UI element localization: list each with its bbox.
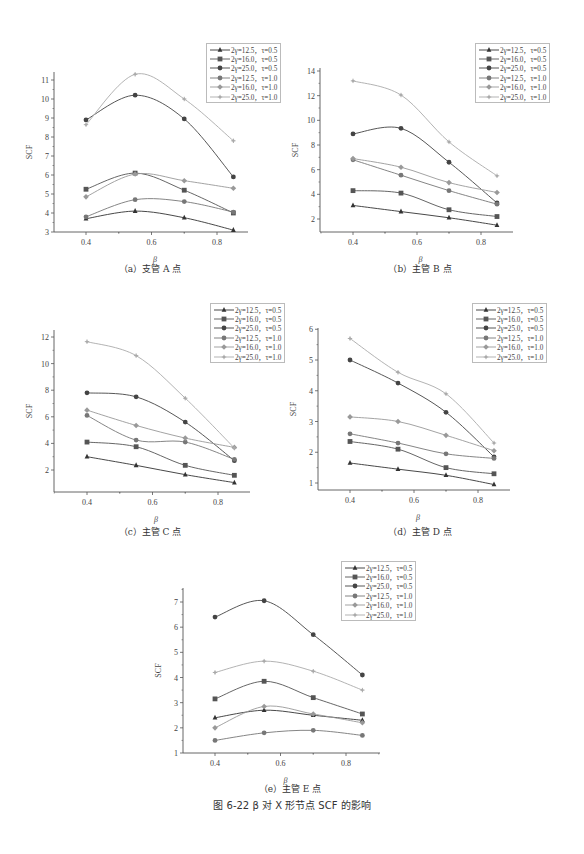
data-point-marker <box>360 733 365 738</box>
data-point-marker <box>361 689 363 691</box>
y-tick-label: 5 <box>174 648 178 657</box>
legend-swatch-icon <box>344 573 366 581</box>
data-point-marker <box>262 730 267 735</box>
data-point-marker <box>311 632 316 637</box>
data-point-marker <box>360 720 366 726</box>
series-line <box>213 679 365 717</box>
legend-swatch-icon <box>344 564 366 572</box>
legend-marker-icon <box>352 602 358 608</box>
y-tick-label: 6 <box>174 623 178 632</box>
legend-swatch-icon <box>344 601 366 609</box>
data-point-marker <box>310 711 316 717</box>
legend-marker-icon <box>353 565 358 570</box>
y-tick-label: 7 <box>174 598 178 607</box>
legend-marker-icon <box>354 613 356 615</box>
chart-legend-e: 2γ=12.5，τ=0.52γ=16.0，τ=0.52γ=25.0，τ=0.52… <box>341 561 416 621</box>
legend-item: 2γ=12.5，τ=0.5 <box>344 563 412 572</box>
legend-item: 2γ=16.0，τ=0.5 <box>344 572 412 581</box>
y-axis-title: SCF <box>154 663 163 678</box>
legend-marker-icon <box>353 584 358 589</box>
y-tick-label: 1 <box>174 749 178 758</box>
data-point-marker <box>213 696 218 701</box>
legend-swatch-icon <box>344 611 366 619</box>
legend-label: 2γ=25.0，τ=1.0 <box>366 610 412 620</box>
legend-item: 2γ=12.5，τ=1.0 <box>344 591 412 600</box>
legend-swatch-icon <box>344 582 366 590</box>
y-tick-label: 3 <box>174 699 178 708</box>
chart-svg-e: 12345670.40.60.8βSCF <box>0 0 584 854</box>
legend-marker-icon <box>353 575 358 580</box>
legend-item: 2γ=25.0，τ=0.5 <box>344 582 412 591</box>
data-point-marker <box>213 615 218 620</box>
legend-item: 2γ=25.0，τ=1.0 <box>344 610 412 619</box>
data-point-marker <box>213 738 218 743</box>
data-point-marker <box>262 679 267 684</box>
data-point-marker <box>261 704 267 710</box>
data-point-marker <box>212 725 218 731</box>
figure-caption: 图 6-22 β 对 X 形节点 SCF 的影响 <box>0 797 584 812</box>
data-point-marker <box>262 598 267 603</box>
data-point-marker <box>360 673 365 678</box>
data-point-marker <box>311 695 316 700</box>
data-point-marker <box>312 670 314 672</box>
data-point-marker <box>214 671 216 673</box>
x-tick-label: 0.8 <box>341 759 351 768</box>
x-tick-label: 0.6 <box>276 759 286 768</box>
y-tick-label: 4 <box>174 674 178 683</box>
chart-caption-e: （e）主管 E 点 <box>230 782 350 795</box>
legend-marker-icon <box>353 593 358 598</box>
y-tick-label: 2 <box>174 724 178 733</box>
data-point-marker <box>263 660 265 662</box>
legend-swatch-icon <box>344 592 366 600</box>
chart-panel-e: 12345670.40.60.8βSCF 2γ=12.5，τ=0.52γ=16.… <box>0 0 584 854</box>
data-point-marker <box>311 728 316 733</box>
legend-item: 2γ=16.0，τ=1.0 <box>344 601 412 610</box>
series-line <box>213 728 365 743</box>
x-tick-label: 0.4 <box>210 759 220 768</box>
series-line <box>213 707 365 722</box>
data-point-marker <box>360 712 365 717</box>
